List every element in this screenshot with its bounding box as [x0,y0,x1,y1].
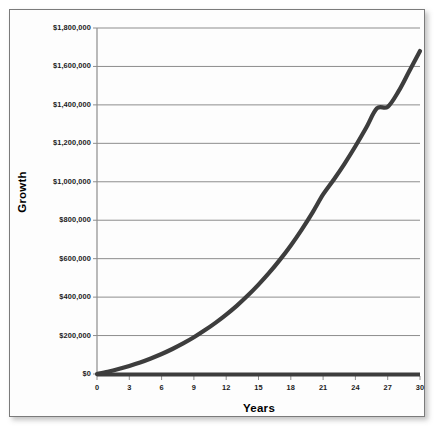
y-axis-title: Growth [16,157,28,227]
x-tick-label: 21 [309,383,337,392]
x-tick-label: 15 [245,383,273,392]
x-tick-label: 6 [148,383,176,392]
x-tick-label: 12 [212,383,240,392]
chart-plot-wrapper: $0$200,000$400,000$600,000$800,000$1,000… [0,0,443,434]
y-tick-label: $400,000 [18,292,91,301]
y-tick-label: $800,000 [18,215,91,224]
growth-data-line [97,51,420,374]
x-tick-label: 9 [180,383,208,392]
y-tick-label: $1,200,000 [18,138,91,147]
x-tick-label: 30 [406,383,434,392]
x-tick-label: 24 [341,383,369,392]
x-tick-label: 18 [277,383,305,392]
y-tick-label: $200,000 [18,331,91,340]
y-tick-label: $1,600,000 [18,61,91,70]
y-tick-label: $0 [18,369,91,378]
gridlines [97,28,420,336]
x-tick-label: 0 [83,383,111,392]
x-tick-label: 27 [374,383,402,392]
y-tick-label: $600,000 [18,254,91,263]
x-axis-title: Years [97,402,421,414]
y-tick-label: $1,400,000 [18,100,91,109]
x-axis-tick-marks [97,376,420,380]
y-tick-label: $1,000,000 [18,177,91,186]
y-tick-label: $1,800,000 [18,23,91,32]
x-tick-label: 3 [115,383,143,392]
